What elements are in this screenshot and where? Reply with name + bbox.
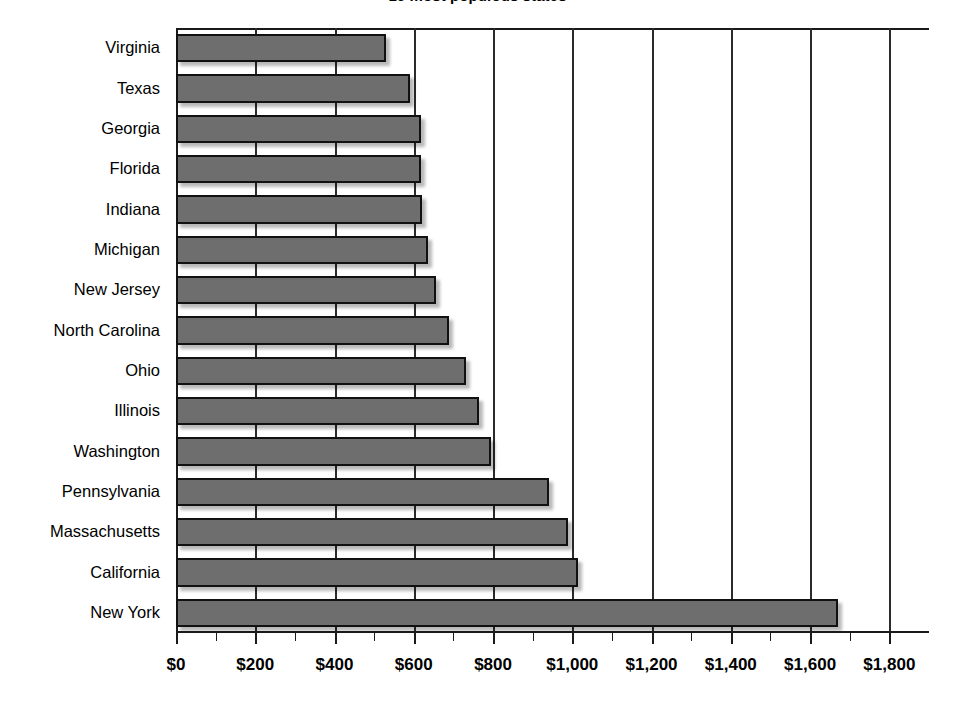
category-label: New York [90, 604, 160, 621]
category-label: Pennsylvania [62, 483, 160, 500]
bar-row [176, 558, 929, 586]
bar-row [176, 115, 929, 143]
category-label: Virginia [105, 39, 160, 56]
bar[interactable] [176, 316, 449, 344]
category-label: Ohio [125, 362, 160, 379]
minor-tickmark [295, 633, 296, 641]
minor-tickmark [691, 633, 692, 641]
bar-row [176, 316, 929, 344]
category-label: Illinois [114, 402, 160, 419]
bar[interactable] [176, 34, 386, 62]
minor-tickmark [533, 633, 534, 641]
bar[interactable] [176, 518, 568, 546]
bar[interactable] [176, 236, 428, 264]
category-label: North Carolina [54, 322, 160, 339]
value-axis-tick-label: $600 [395, 655, 433, 675]
value-axis-tick-label: $1,400 [705, 655, 757, 675]
bar[interactable] [176, 599, 838, 627]
tickmark [414, 633, 416, 644]
bar-row [176, 74, 929, 102]
bar[interactable] [176, 397, 479, 425]
minor-tickmark [770, 633, 771, 641]
value-axis-tick-label: $1,000 [546, 655, 598, 675]
bar[interactable] [176, 74, 410, 102]
bars-layer [176, 28, 929, 633]
minor-tickmark [374, 633, 375, 641]
category-label: New Jersey [74, 281, 160, 298]
bar-row [176, 397, 929, 425]
tickmark [731, 633, 733, 644]
bar-row [176, 195, 929, 223]
bar-chart: 15 most populous states VirginiaTexasGeo… [0, 0, 955, 703]
category-label: Texas [117, 80, 160, 97]
bar[interactable] [176, 276, 436, 304]
category-label: Georgia [101, 120, 160, 137]
bar[interactable] [176, 195, 422, 223]
value-axis-tick-label: $800 [474, 655, 512, 675]
value-axis-tick-label: $1,200 [626, 655, 678, 675]
minor-tickmark [453, 633, 454, 641]
bar[interactable] [176, 357, 466, 385]
bar-row [176, 478, 929, 506]
plot-area [176, 28, 929, 633]
value-axis-tick-label: $400 [316, 655, 354, 675]
category-label: Florida [110, 160, 160, 177]
tickmark [889, 633, 891, 644]
category-axis-line [176, 631, 929, 633]
tickmark [493, 633, 495, 644]
bar[interactable] [176, 155, 421, 183]
category-label: Indiana [106, 201, 160, 218]
category-label: Washington [73, 443, 160, 460]
tickmark [652, 633, 654, 644]
bar-row [176, 276, 929, 304]
category-label: Massachusetts [50, 523, 160, 540]
bar-row [176, 155, 929, 183]
category-axis-labels: VirginiaTexasGeorgiaFloridaIndianaMichig… [0, 28, 168, 633]
category-label: California [90, 564, 160, 581]
tickmark [335, 633, 337, 644]
value-axis-tick-label: $1,600 [784, 655, 836, 675]
bar-row [176, 437, 929, 465]
value-axis-tick-label: $0 [167, 655, 186, 675]
bar[interactable] [176, 478, 549, 506]
bar-row [176, 34, 929, 62]
value-axis-labels: $0$200$400$600$800$1,000$1,200$1,400$1,6… [0, 655, 955, 685]
category-label: Michigan [94, 241, 160, 258]
minor-tickmark [612, 633, 613, 641]
bar-row [176, 599, 929, 627]
value-axis-tick-label: $200 [236, 655, 274, 675]
tickmark [176, 633, 178, 644]
minor-tickmark [216, 633, 217, 641]
tickmark [572, 633, 574, 644]
bar[interactable] [176, 437, 491, 465]
tickmark [255, 633, 257, 644]
bar[interactable] [176, 558, 578, 586]
chart-title: 15 most populous states [0, 0, 955, 4]
tickmark [810, 633, 812, 644]
minor-tickmark [850, 633, 851, 641]
value-axis-tick-label: $1,800 [863, 655, 915, 675]
bar-row [176, 518, 929, 546]
bar-row [176, 357, 929, 385]
bar-row [176, 236, 929, 264]
bar[interactable] [176, 115, 421, 143]
